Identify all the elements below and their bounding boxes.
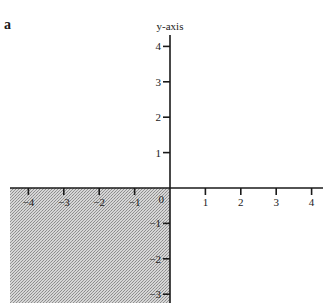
x-tick-label: −1 [129,196,141,208]
y-tick-label: −1 [149,217,161,229]
y-tick-label: −2 [149,253,161,265]
x-tick-label: 1 [203,196,209,208]
x-tick-label: −2 [93,196,105,208]
x-tick-label: 3 [273,196,279,208]
y-tick-label: −3 [149,288,161,300]
x-tick-label: −3 [58,196,70,208]
origin-label: 0 [159,193,165,205]
x-tick-label: −4 [23,196,35,208]
coordinate-plane: −4−3−2−11234 4321−1−2−3 y-axis 0 [0,0,323,303]
x-tick-label: 2 [238,196,244,208]
y-tick-label: 2 [156,111,162,123]
y-tick-label: 4 [156,40,162,52]
y-axis-title: y-axis [157,20,184,32]
y-tick-label: 3 [156,76,162,88]
x-tick-label: 4 [309,196,315,208]
y-tick-label: 1 [156,147,162,159]
